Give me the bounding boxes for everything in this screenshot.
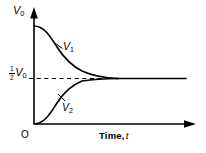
curve-v2 [34,79,118,125]
tick-label-symbol-group: V0 [15,67,27,80]
x-axis [34,120,196,128]
tick-label-subscript: 0 [22,71,26,80]
curve-label-v2: V2 [62,102,73,114]
y-axis [30,7,38,124]
y-tick-label-half-v0: 12V0 [9,66,27,81]
origin-label: O [21,130,29,140]
curve-label-v2-subscript: 2 [69,107,73,114]
fraction-numerator: 1 [9,66,15,74]
y-axis-label-subscript: 0 [20,9,24,18]
y-axis-label: V0 [13,5,25,18]
x-axis-label-text: Time, [99,130,125,141]
curve-label-v2-symbol: V [62,101,69,113]
fraction-denominator: 2 [9,74,15,81]
curve-label-v1-subscript: 1 [70,46,74,53]
fraction-one-half: 12 [9,66,15,81]
curve-label-v1-symbol: V [63,40,70,52]
x-axis-label-variable: t [126,130,129,141]
curve-v1 [34,26,118,79]
exponential-convergence-chart: V0 12V0 V1 V2 O Time,t [0,0,206,153]
curve-label-v1: V1 [63,41,74,53]
x-axis-label: Time,t [99,131,128,141]
